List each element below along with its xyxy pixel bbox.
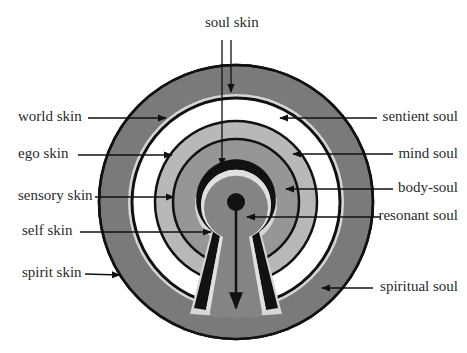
label-spiritual-soul: spiritual soul [380,279,458,294]
label-sentient-soul: sentient soul [383,109,458,124]
label-body-soul: body-soul [398,180,458,195]
label-mind-soul: mind soul [398,146,458,161]
label-sensory-skin: sensory skin [18,188,93,203]
label-self-skin: self skin [22,223,72,238]
label-soul-skin: soul skin [205,15,259,30]
spirit-skin-arrow [85,274,120,275]
center-dot [227,193,245,211]
label-world-skin: world skin [18,109,82,124]
label-ego-skin: ego skin [18,146,68,161]
label-resonant-soul: resonant soul [378,208,458,223]
soul-skin-diagram [0,0,467,353]
label-spirit-skin: spirit skin [22,265,82,280]
